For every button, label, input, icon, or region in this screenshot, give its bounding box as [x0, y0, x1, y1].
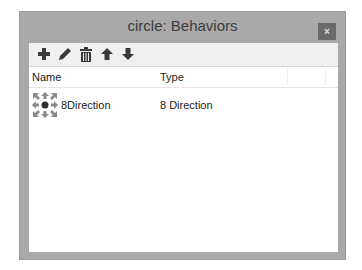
column-divider[interactable] [325, 69, 326, 85]
behaviors-dialog: circle: Behaviors × [20, 12, 345, 259]
close-button[interactable]: × [318, 23, 336, 40]
pencil-icon [58, 47, 72, 61]
column-divider[interactable] [287, 69, 288, 85]
column-header-type[interactable]: Type [160, 71, 184, 83]
move-up-button[interactable] [99, 46, 115, 62]
arrow-up-icon [101, 48, 113, 60]
trash-icon [79, 47, 93, 62]
behavior-name: 8Direction [61, 99, 111, 111]
list-item[interactable]: 8Direction 8 Direction [29, 88, 338, 122]
close-icon: × [324, 26, 330, 37]
window-title: circle: Behaviors [20, 17, 345, 34]
title-bar[interactable]: circle: Behaviors × [20, 12, 345, 43]
move-down-button[interactable] [120, 46, 136, 62]
edit-behavior-button[interactable] [57, 46, 73, 62]
arrow-down-icon [122, 48, 134, 60]
plus-icon [37, 47, 51, 61]
toolbar [29, 43, 338, 67]
behavior-type: 8 Direction [160, 99, 213, 111]
dialog-content: Name Type 8Direction [29, 43, 338, 252]
delete-behavior-button[interactable] [78, 46, 94, 62]
column-header-name[interactable]: Name [32, 71, 61, 83]
eight-direction-icon [30, 90, 60, 120]
list-header: Name Type [29, 67, 338, 88]
add-behavior-button[interactable] [36, 46, 52, 62]
